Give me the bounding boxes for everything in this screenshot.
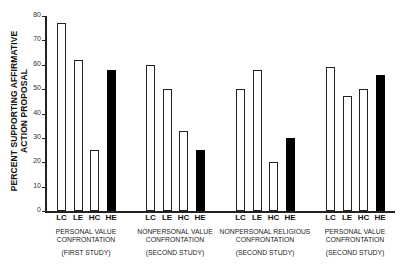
y-tick <box>42 65 46 66</box>
bar-category-label: LE <box>69 213 87 222</box>
bar-category-label: LC <box>322 213 340 222</box>
group-label: NONPERSONAL RELIGIOUSCONFRONTATION <box>215 228 315 244</box>
bar-category-label: HE <box>191 213 209 222</box>
y-tick <box>42 162 46 163</box>
group-label-line: NONPERSONAL VALUE <box>125 228 225 236</box>
y-tick-label: 60 <box>24 60 41 67</box>
bar-lc <box>326 67 335 211</box>
y-tick-label: 0 <box>24 206 41 213</box>
bar-category-label: HE <box>371 213 389 222</box>
bar-category-label: HE <box>281 213 299 222</box>
y-tick-label: 20 <box>24 157 41 164</box>
bar-category-label: HC <box>86 213 104 222</box>
study-label: (SECOND STUDY) <box>215 249 315 256</box>
group-label-line: CONFRONTATION <box>305 236 405 244</box>
bar-category-label: LE <box>158 213 176 222</box>
bar-lc <box>236 89 245 211</box>
bar-he <box>376 75 385 212</box>
group-label-line: CONFRONTATION <box>125 236 225 244</box>
bar-category-label: LC <box>232 213 250 222</box>
bar-category-label: HE <box>102 213 120 222</box>
y-tick <box>42 40 46 41</box>
bar-lc <box>57 23 66 211</box>
y-tick <box>42 211 46 212</box>
study-label: (SECOND STUDY) <box>125 249 225 256</box>
y-tick <box>42 138 46 139</box>
bar-category-label: HC <box>265 213 283 222</box>
bar-he <box>196 150 205 211</box>
y-tick <box>42 89 46 90</box>
study-label: (SECOND STUDY) <box>305 249 405 256</box>
y-tick-label: 80 <box>24 11 41 18</box>
bar-he <box>286 138 295 211</box>
y-tick-label: 30 <box>24 133 41 140</box>
bar-hc <box>359 89 368 211</box>
y-tick-label: 70 <box>24 35 41 42</box>
group-label-line: NONPERSONAL RELIGIOUS <box>215 228 315 236</box>
y-tick <box>42 187 46 188</box>
bar-le <box>163 89 172 211</box>
bar-category-label: LC <box>142 213 160 222</box>
group-label-line: PERSONAL VALUE <box>305 228 405 236</box>
bar-category-label: HC <box>355 213 373 222</box>
group-label-line: CONFRONTATION <box>36 236 136 244</box>
bar-category-label: HC <box>175 213 193 222</box>
bar-he <box>107 70 116 211</box>
bar-hc <box>269 162 278 211</box>
bar-category-label: LC <box>53 213 71 222</box>
group-label: NONPERSONAL VALUECONFRONTATION <box>125 228 225 244</box>
bar-le <box>74 60 83 211</box>
y-axis-title-line1: PERCENT SUPPORTING AFFIRMATIVE <box>9 31 19 192</box>
bar-le <box>253 70 262 211</box>
group-label-line: CONFRONTATION <box>215 236 315 244</box>
bar-category-label: LE <box>338 213 356 222</box>
bar-category-label: LE <box>248 213 266 222</box>
group-label: PERSONAL VALUECONFRONTATION <box>305 228 405 244</box>
bar-hc <box>179 131 188 211</box>
y-tick-label: 40 <box>24 109 41 116</box>
y-tick <box>42 114 46 115</box>
bar-hc <box>90 150 99 211</box>
y-tick <box>42 16 46 17</box>
bar-lc <box>146 65 155 211</box>
y-tick-label: 50 <box>24 84 41 91</box>
y-tick-label: 10 <box>24 182 41 189</box>
study-label: (FIRST STUDY) <box>36 249 136 256</box>
group-label-line: PERSONAL VALUE <box>36 228 136 236</box>
group-label: PERSONAL VALUECONFRONTATION <box>36 228 136 244</box>
bar-le <box>343 96 352 211</box>
